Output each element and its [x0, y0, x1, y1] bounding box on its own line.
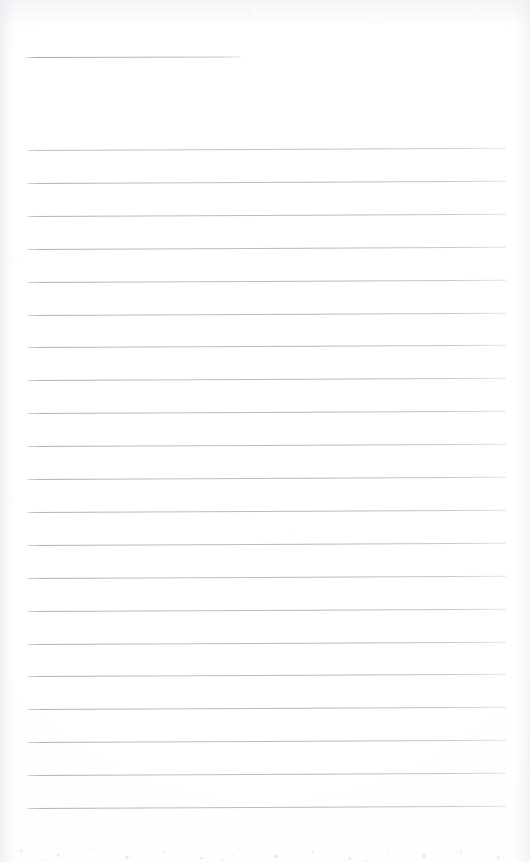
scan-noise-bottom-band	[0, 822, 530, 862]
scan-edge-shadow-top	[0, 0, 530, 26]
handwriting-area	[27, 150, 506, 810]
short-rule-line	[25, 57, 241, 58]
scan-edge-shadow-left	[0, 0, 14, 862]
scanned-page	[0, 0, 530, 862]
scan-edge-shadow-right	[514, 0, 530, 862]
